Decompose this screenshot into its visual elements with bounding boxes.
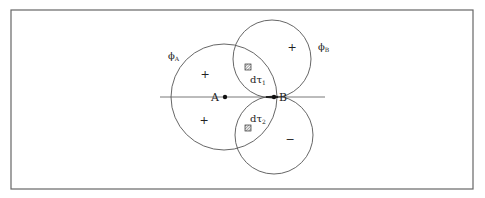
- orbital-phi-B-lower: [235, 96, 313, 174]
- orbital-label-phi-B-upper: ϕB: [318, 41, 330, 53]
- volume-element-1-box: [245, 64, 251, 70]
- volume-element-1-label: dτ1: [250, 74, 266, 86]
- nuclei: AB: [210, 91, 287, 104]
- plus-sign-2: +: [199, 114, 208, 127]
- figure-frame: [11, 10, 473, 189]
- nucleus-a-dot: [223, 95, 227, 99]
- plus-sign-1: +: [287, 41, 296, 54]
- orbital-phi-B-upper: [233, 20, 311, 98]
- orbital-label-phi-A: ϕA: [168, 50, 180, 62]
- orbital-overlap-diagram: ϕAϕB AB +++− dτ1dτ2: [0, 0, 485, 198]
- plus-sign-0: +: [200, 68, 209, 81]
- volume-element-2-box: [245, 125, 251, 131]
- nucleus-a-label: A: [210, 91, 220, 104]
- minus-sign-3: −: [285, 133, 294, 146]
- nucleus-b-label: B: [279, 91, 287, 104]
- volume-element-2-label: dτ2: [250, 113, 266, 125]
